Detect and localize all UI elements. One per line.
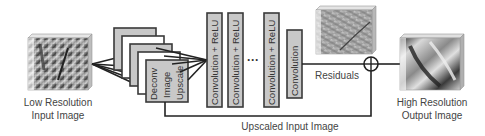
conv-layer-2-label: Convolution + ReLU: [230, 20, 241, 105]
conv-layer-3: Convolution + ReLU: [264, 13, 279, 107]
upscale-feature-stack: Deconv Image Upscale: [114, 28, 188, 102]
ellipsis: ···: [247, 53, 259, 67]
conv-layer-2: Convolution + ReLU: [228, 13, 243, 107]
residuals-image: [316, 6, 376, 54]
output-label-line1: High Resolution: [397, 97, 468, 108]
conv-layer-final: Convolution: [287, 30, 302, 98]
high-res-output-image: [400, 34, 464, 90]
low-res-input-image: [28, 34, 92, 90]
image-label: Image: [161, 72, 172, 98]
output-label-line2: Output Image: [402, 110, 463, 121]
conv-layer-1-label: Convolution + ReLU: [209, 20, 220, 105]
conv-layer-final-label: Convolution: [289, 46, 300, 96]
sum-node-icon: [364, 57, 378, 71]
skip-connection-label: Upscaled Input Image: [241, 121, 339, 132]
srcnn-diagram: Low Resolution Input Image Deconv Image …: [0, 0, 485, 136]
deconv-label: Deconv: [148, 68, 159, 100]
conv-layer-3-label: Convolution + ReLU: [266, 20, 277, 105]
conv-layer-1: Convolution + ReLU: [207, 13, 222, 107]
input-label-line1: Low Resolution: [24, 97, 92, 108]
input-label-line2: Input Image: [32, 110, 85, 121]
residuals-label: Residuals: [315, 70, 359, 81]
